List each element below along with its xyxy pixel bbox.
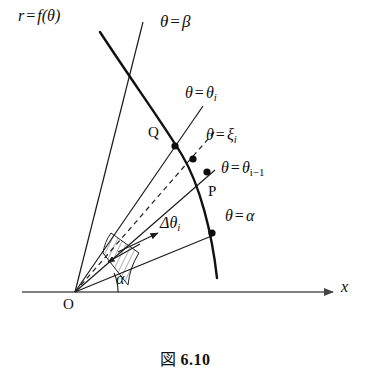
- point-q-dot: [171, 142, 178, 149]
- label-theta-equals-beta: θ=β: [160, 13, 190, 30]
- subscript-i-delta: i: [177, 221, 180, 233]
- delta-glyph: Δ: [160, 214, 169, 231]
- point-alpha-dot: [208, 229, 215, 236]
- ray-theta-alpha: [75, 235, 214, 292]
- figure-caption: 図 6.10: [0, 346, 370, 370]
- ray-theta-i-minus-1: [75, 170, 215, 292]
- label-curve-equation: r=f(θ): [18, 8, 60, 24]
- xi-glyph: ξ: [227, 126, 234, 143]
- theta-glyph-xi: θ: [206, 126, 214, 143]
- label-origin-o: O: [63, 297, 74, 312]
- label-theta-equals-theta-i-minus-1: θ=θi−1: [221, 160, 264, 178]
- theta-glyph-im1: θ: [221, 159, 229, 176]
- beta-glyph: β: [182, 12, 190, 31]
- point-p-dot: [203, 168, 210, 175]
- label-theta-equals-theta-i: θ=θi: [185, 85, 217, 103]
- label-point-q: Q: [148, 125, 159, 140]
- equals-glyph-xi: =: [214, 126, 227, 143]
- subscript-i: i: [214, 91, 217, 103]
- label-theta-equals-alpha: θ=α: [225, 208, 254, 224]
- polar-sector-diagram: [0, 0, 370, 380]
- label-theta-arg: (θ): [42, 7, 61, 24]
- subscript-i-minus-1: i−1: [250, 166, 265, 178]
- label-point-p: P: [208, 184, 216, 199]
- equals-glyph-i: =: [193, 84, 206, 101]
- point-xi-dot: [189, 155, 196, 162]
- theta-glyph-im1b: θ: [242, 159, 250, 176]
- figure-container: r=f(θ) θ=β θ=θi θ=ξi θ=θi−1 θ=α Δθi Q P …: [0, 0, 370, 380]
- label-delta-theta-i: Δθi: [160, 215, 180, 233]
- equals-glyph-beta: =: [168, 12, 182, 31]
- label-theta-equals-xi-i: θ=ξi: [206, 127, 237, 145]
- label-x-axis: x: [341, 279, 348, 295]
- theta-glyph-alpha: θ: [225, 207, 233, 224]
- label-angle-alpha: α: [116, 271, 124, 287]
- ray-theta-xi-i-dashed: [75, 131, 215, 292]
- theta-glyph-i: θ: [185, 84, 193, 101]
- equals-glyph-im1: =: [229, 159, 242, 176]
- caption-symbol: 図: [160, 351, 177, 368]
- caption-number: 6.10: [181, 351, 211, 368]
- subscript-i-xi: i: [234, 133, 237, 145]
- alpha-glyph-eq: α: [246, 207, 254, 224]
- equals-glyph-alpha: =: [233, 207, 246, 224]
- label-equals-curve: =: [24, 7, 37, 24]
- ray-theta-i: [75, 106, 203, 292]
- theta-glyph-i2: θ: [206, 84, 214, 101]
